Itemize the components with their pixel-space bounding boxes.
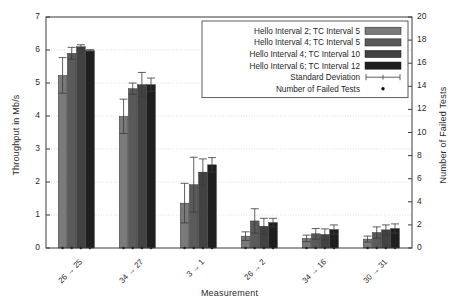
bar: [86, 51, 95, 248]
legend-label: Standard Deviation: [290, 73, 360, 82]
y-tick-label-right: 10: [417, 127, 439, 137]
bar: [147, 85, 156, 248]
y-axis-label-right: Number of Failed Tests: [438, 75, 448, 195]
bar: [58, 75, 67, 248]
legend-swatch: [365, 50, 401, 57]
y-tick-label-left: 2: [18, 176, 40, 186]
bar: [128, 89, 137, 248]
bar: [77, 47, 86, 248]
legend-dot: [381, 87, 384, 90]
y-tick-label-right: 18: [417, 34, 439, 44]
y-tick-label-right: 20: [417, 11, 439, 21]
legend-label: Hello Interval 2; TC Interval 5: [254, 27, 360, 36]
legend-swatch: [365, 27, 401, 34]
y-tick-label-right: 8: [417, 150, 439, 160]
y-tick-label-right: 16: [417, 57, 439, 67]
x-axis-label: Measurement: [0, 288, 459, 298]
y-tick-label-right: 4: [417, 196, 439, 206]
legend: Hello Interval 2; TC Interval 5Hello Int…: [202, 21, 408, 98]
legend-label: Hello Interval 4; TC Interval 5: [254, 38, 360, 47]
y-tick-label-left: 1: [18, 209, 40, 219]
y-tick-label-left: 4: [18, 110, 40, 120]
bar: [119, 116, 128, 248]
y-tick-label-right: 14: [417, 80, 439, 90]
y-tick-label-right: 6: [417, 173, 439, 183]
bar: [208, 165, 217, 248]
y-tick-label-right: 12: [417, 103, 439, 113]
y-tick-label-right: 0: [417, 242, 439, 252]
chart-figure: Hello Interval 2; TC Interval 5Hello Int…: [0, 0, 459, 306]
y-tick-label-left: 0: [18, 242, 40, 252]
bar: [67, 53, 76, 248]
plot-canvas: Hello Interval 2; TC Interval 5Hello Int…: [0, 0, 459, 306]
y-tick-label-left: 7: [18, 11, 40, 21]
y-tick-label-left: 5: [18, 77, 40, 87]
legend-label: Hello Interval 4; TC Interval 10: [250, 50, 361, 59]
y-tick-label-left: 6: [18, 44, 40, 54]
legend-swatch: [365, 62, 401, 69]
bar: [138, 85, 147, 248]
legend-label: Number of Failed Tests: [276, 85, 360, 94]
legend-swatch: [365, 39, 401, 46]
legend-label: Hello Interval 6; TC Interval 12: [250, 62, 361, 71]
y-tick-label-right: 2: [417, 219, 439, 229]
y-tick-label-left: 3: [18, 143, 40, 153]
